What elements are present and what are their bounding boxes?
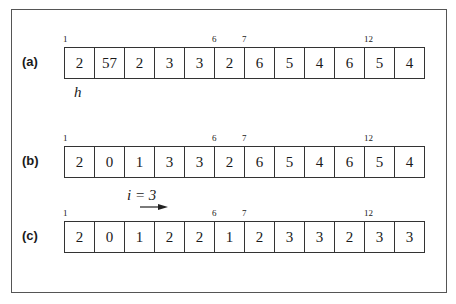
array-cell: 5 [275, 147, 305, 177]
array-cell: 4 [395, 48, 425, 78]
annotation-h: h [74, 84, 82, 101]
array-cell: 3 [155, 48, 185, 78]
index-7: 7 [242, 34, 247, 44]
array-cell: 5 [365, 48, 395, 78]
array-cell: 2 [215, 48, 245, 78]
array-cell: 2 [215, 147, 245, 177]
index-6: 6 [212, 133, 217, 143]
array-cell: 3 [185, 147, 215, 177]
index-7: 7 [242, 133, 247, 143]
index-7: 7 [242, 208, 247, 218]
array-cell: 2 [65, 48, 95, 78]
array-cell: 4 [305, 147, 335, 177]
array-cell: 57 [95, 48, 125, 78]
array-cell: 1 [125, 147, 155, 177]
array-cell: 3 [275, 222, 305, 252]
array-cell: 4 [395, 147, 425, 177]
array-cell: 2 [125, 48, 155, 78]
row-label: (b) [22, 153, 39, 168]
array-cells: 2 0 1 3 3 2 6 5 4 6 5 4 [64, 146, 425, 178]
array-cell: 5 [275, 48, 305, 78]
index-6: 6 [212, 34, 217, 44]
array-cell: 3 [365, 222, 395, 252]
array-cell: 6 [335, 147, 365, 177]
array-cell: 6 [335, 48, 365, 78]
index-first: 1 [63, 133, 68, 143]
array-cell: 3 [305, 222, 335, 252]
index-6: 6 [212, 208, 217, 218]
row-label: (a) [22, 54, 38, 69]
array-cells: 2 0 1 2 2 1 2 3 3 2 3 3 [64, 221, 425, 253]
annotation-i: i = 3 [127, 187, 156, 204]
array-cell: 6 [245, 147, 275, 177]
index-last: 12 [364, 208, 373, 218]
array-cell: 0 [95, 147, 125, 177]
array-cell: 2 [245, 222, 275, 252]
array-cell: 2 [185, 222, 215, 252]
array-cell: 2 [335, 222, 365, 252]
array-cell: 2 [155, 222, 185, 252]
array-cell: 4 [305, 48, 335, 78]
index-last: 12 [364, 34, 373, 44]
array-cell: 3 [155, 147, 185, 177]
array-cell: 5 [365, 147, 395, 177]
index-first: 1 [63, 34, 68, 44]
array-cells: 2 57 2 3 3 2 6 5 4 6 5 4 [64, 47, 425, 79]
array-cell: 0 [95, 222, 125, 252]
array-cell: 3 [185, 48, 215, 78]
array-cell: 3 [395, 222, 425, 252]
array-cell: 1 [125, 222, 155, 252]
array-cell: 2 [65, 147, 95, 177]
row-label: (c) [22, 228, 38, 243]
arrow-right-icon [140, 203, 170, 211]
index-last: 12 [364, 133, 373, 143]
array-cell: 6 [245, 48, 275, 78]
array-cell: 1 [215, 222, 245, 252]
index-first: 1 [63, 208, 68, 218]
array-cell: 2 [65, 222, 95, 252]
